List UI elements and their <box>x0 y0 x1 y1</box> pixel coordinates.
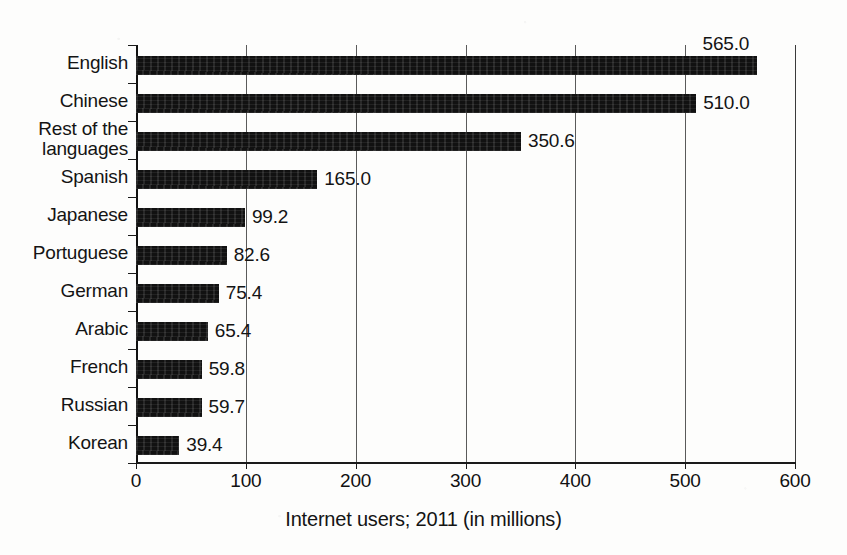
gridline-600 <box>795 45 796 463</box>
category-label: Korean <box>68 433 128 453</box>
x-tick-label: 100 <box>230 470 261 492</box>
y-tick <box>128 349 137 350</box>
category-label: Chinese <box>60 91 128 111</box>
bar-chart: 0100200300400500600 EnglishChineseRest o… <box>0 0 847 555</box>
value-label: 82.6 <box>234 244 270 266</box>
category-label: Japanese <box>47 205 128 225</box>
bar <box>136 436 179 455</box>
x-tick-0 <box>136 462 137 469</box>
category-label: German <box>61 281 128 301</box>
x-tick-label: 500 <box>670 470 701 492</box>
value-label: 65.4 <box>215 320 251 342</box>
y-tick <box>128 121 137 122</box>
category-label: Portuguese <box>33 243 128 263</box>
y-tick <box>128 273 137 274</box>
bar <box>136 94 696 113</box>
bar <box>136 360 202 379</box>
bar <box>136 322 208 341</box>
x-tick-500 <box>685 462 686 469</box>
y-tick <box>128 425 137 426</box>
x-tick-600 <box>795 462 796 469</box>
value-label: 350.6 <box>528 130 575 152</box>
x-tick-label: 400 <box>560 470 591 492</box>
x-tick-label: 0 <box>131 470 141 492</box>
y-tick <box>128 83 137 84</box>
y-tick <box>128 387 137 388</box>
category-label: English <box>67 53 128 73</box>
category-label: Spanish <box>61 167 128 187</box>
y-tick <box>128 235 137 236</box>
x-tick-label: 600 <box>779 470 810 492</box>
bar <box>136 398 202 417</box>
value-label: 165.0 <box>324 168 371 190</box>
value-label: 59.8 <box>209 358 245 380</box>
x-tick-300 <box>466 462 467 469</box>
x-tick-label: 300 <box>450 470 481 492</box>
bar <box>136 170 317 189</box>
category-label: Russian <box>61 395 128 415</box>
x-tick-200 <box>356 462 357 469</box>
category-label: Arabic <box>75 319 128 339</box>
x-tick-100 <box>246 462 247 469</box>
y-tick <box>128 311 137 312</box>
y-tick <box>128 45 137 46</box>
y-tick <box>128 159 137 160</box>
category-label: Rest of the languages <box>38 119 128 159</box>
value-label: 39.4 <box>186 434 222 456</box>
value-label: 99.2 <box>252 206 288 228</box>
value-label: 565.0 <box>703 33 750 55</box>
value-label: 510.0 <box>703 92 750 114</box>
bar <box>136 284 219 303</box>
x-tick-label: 200 <box>340 470 371 492</box>
category-label: French <box>70 357 128 377</box>
bar <box>136 56 757 75</box>
bar <box>136 246 227 265</box>
value-label: 75.4 <box>226 282 262 304</box>
x-axis-title: Internet users; 2011 (in millions) <box>0 508 847 531</box>
value-label: 59.7 <box>209 396 245 418</box>
bar <box>136 132 521 151</box>
x-tick-400 <box>575 462 576 469</box>
y-tick <box>128 197 137 198</box>
bar <box>136 208 245 227</box>
